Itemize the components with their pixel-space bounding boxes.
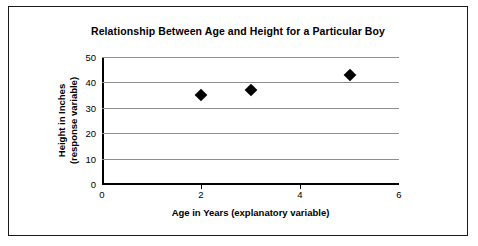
y-tick-label: 40	[85, 77, 96, 88]
y-tick-label: 0	[91, 179, 96, 190]
x-axis-tick	[201, 185, 202, 189]
x-axis-line	[102, 183, 399, 185]
data-point	[195, 89, 208, 102]
x-tick-label: 2	[198, 189, 203, 200]
y-axis-title: Height in Inches (response variable)	[53, 57, 83, 184]
y-tick-label: 30	[85, 102, 96, 113]
data-point	[244, 84, 257, 97]
data-point	[343, 68, 356, 81]
x-tick-label: 0	[99, 189, 104, 200]
gridline	[102, 159, 399, 160]
x-axis-tick	[300, 185, 301, 189]
chart-figure: Relationship Between Age and Height for …	[8, 6, 468, 236]
x-axis-title: Age in Years (explanatory variable)	[102, 207, 399, 218]
y-tick-label: 20	[85, 128, 96, 139]
x-tick-label: 4	[297, 189, 302, 200]
y-axis-line	[102, 57, 104, 184]
chart-title: Relationship Between Age and Height for …	[9, 25, 467, 37]
y-tick-label: 50	[85, 52, 96, 63]
x-tick-label: 6	[396, 189, 401, 200]
y-axis-title-line2: (response variable)	[68, 77, 80, 164]
plot-area: 01020304050 0246	[102, 57, 399, 184]
gridline	[102, 108, 399, 109]
y-axis-title-line1: Height in Inches	[56, 84, 68, 157]
gridline	[102, 57, 399, 58]
y-tick-label: 10	[85, 153, 96, 164]
gridline	[102, 133, 399, 134]
